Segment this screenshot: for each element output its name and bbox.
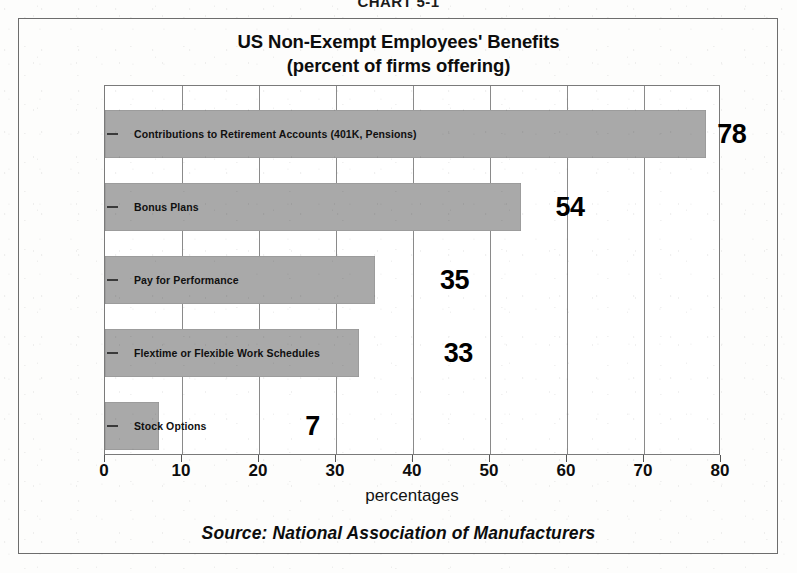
chart-subtitle: (percent of firms offering) [0,54,797,78]
axis-tick-label: 80 [711,461,730,481]
bar-row: Pay for Performance35 [105,256,721,304]
category-tick-icon [107,279,118,281]
bar-row: Flextime or Flexible Work Schedules33 [105,329,721,377]
axis-tick-label: 40 [403,461,422,481]
source-note: Source: National Association of Manufact… [0,523,797,544]
bar-row: Stock Options7 [105,402,721,450]
bar-category-label: Bonus Plans [134,201,199,213]
bar-row: Bonus Plans54 [105,183,721,231]
bar-category-label: Flextime or Flexible Work Schedules [134,347,320,359]
bar-category-label: Pay for Performance [134,274,239,286]
x-axis-title: percentages [104,486,720,506]
bar-value-label: 7 [305,411,320,442]
bar-category-label: Stock Options [134,420,206,432]
plot-wrapper: Contributions to Retirement Accounts (40… [104,85,720,455]
bar-row: Contributions to Retirement Accounts (40… [105,110,721,158]
axis-tick-label: 0 [99,461,108,481]
x-axis-tick-labels: 01020304050607080 [104,461,720,485]
axis-tick-label: 30 [326,461,345,481]
category-tick-icon [107,352,118,354]
axis-tick-label: 70 [634,461,653,481]
axis-tick-label: 20 [249,461,268,481]
axis-tick-label: 60 [557,461,576,481]
category-tick-icon [107,425,118,427]
category-tick-icon [107,206,118,208]
plot-area: Contributions to Retirement Accounts (40… [104,85,720,455]
chart-caption: CHART 5-1 [0,0,797,10]
category-tick-icon [107,133,118,135]
chart-title-block: US Non-Exempt Employees' Benefits (perce… [0,30,797,78]
axis-tick-label: 50 [480,461,499,481]
axis-tick-label: 10 [172,461,191,481]
chart-title: US Non-Exempt Employees' Benefits [0,30,797,54]
bar-value-label: 78 [717,119,746,150]
bar-value-label: 33 [444,338,473,369]
bar-value-label: 35 [440,265,469,296]
bar-value-label: 54 [555,192,584,223]
bar-category-label: Contributions to Retirement Accounts (40… [134,128,417,140]
scanned-page: CHART 5-1 US Non-Exempt Employees' Benef… [0,0,797,573]
